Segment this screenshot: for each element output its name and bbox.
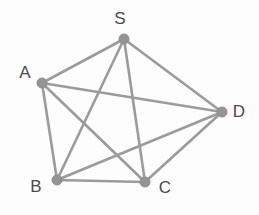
graph-canvas: SADBC <box>0 0 259 215</box>
graph-edge-s-c <box>124 39 145 182</box>
graph-edge-a-b <box>42 83 57 180</box>
graph-edge-b-c <box>57 180 145 182</box>
graph-node-label-s: S <box>114 9 125 28</box>
graph-figure: SADBC <box>0 0 259 215</box>
graph-node-label-b: B <box>30 177 41 196</box>
graph-node-a[interactable] <box>37 78 47 88</box>
graph-edge-s-a <box>42 39 124 83</box>
graph-edge-s-b <box>57 39 124 180</box>
graph-node-label-a: A <box>19 63 31 82</box>
graph-node-b[interactable] <box>52 175 62 185</box>
graph-node-label-c: C <box>159 178 171 197</box>
edge-layer <box>42 39 222 182</box>
graph-node-c[interactable] <box>140 177 150 187</box>
graph-node-d[interactable] <box>217 107 227 117</box>
graph-node-label-d: D <box>233 102 245 121</box>
graph-edge-c-d <box>145 112 222 182</box>
graph-node-s[interactable] <box>119 34 129 44</box>
graph-edge-s-d <box>124 39 222 112</box>
